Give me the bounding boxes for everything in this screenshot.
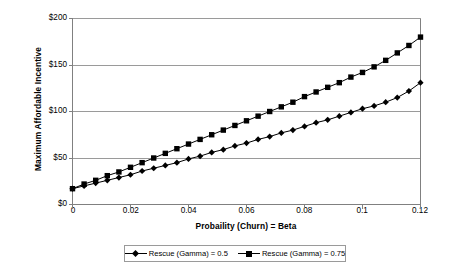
data-point-marker: [93, 178, 98, 183]
data-point-marker: [70, 186, 75, 191]
data-point-marker: [360, 70, 365, 75]
data-point-marker: [243, 140, 249, 146]
data-point-marker: [371, 103, 377, 109]
data-point-marker: [81, 181, 86, 186]
data-point-marker: [105, 173, 110, 178]
legend-label-gamma-075: Rescue (Gamma) = 0.75: [262, 249, 345, 258]
data-point-marker: [162, 162, 168, 168]
data-point-marker: [128, 165, 133, 170]
data-point-marker: [151, 155, 156, 160]
series-1: [69, 80, 423, 192]
data-point-marker: [325, 117, 331, 123]
data-point-marker: [209, 149, 215, 155]
series-2: [70, 34, 423, 191]
legend-marker-diamond-icon: [125, 249, 147, 258]
data-point-marker: [255, 113, 260, 118]
legend-marker-square-icon: [238, 249, 260, 258]
data-point-marker: [127, 172, 133, 178]
data-point-marker: [267, 134, 273, 140]
data-point-marker: [383, 58, 388, 63]
data-point-marker: [278, 130, 284, 136]
legend-entry-gamma-05: Rescue (Gamma) = 0.5: [125, 249, 228, 258]
data-point-marker: [313, 89, 318, 94]
data-point-marker: [395, 50, 400, 55]
data-point-marker: [186, 141, 191, 146]
data-point-marker: [348, 109, 354, 115]
data-point-marker: [325, 85, 330, 90]
data-point-marker: [209, 132, 214, 137]
data-point-marker: [174, 146, 179, 151]
data-point-marker: [151, 165, 157, 171]
data-point-marker: [116, 174, 122, 180]
data-point-marker: [301, 123, 307, 129]
data-point-marker: [290, 127, 296, 133]
data-point-marker: [418, 34, 423, 39]
data-point-marker: [221, 127, 226, 132]
data-point-marker: [336, 113, 342, 119]
data-point-marker: [290, 100, 295, 105]
data-point-marker: [359, 106, 365, 112]
axis-ticks: [69, 19, 421, 209]
data-point-marker: [406, 43, 411, 48]
data-point-marker: [220, 147, 226, 153]
plot-area: [0, 0, 452, 275]
data-point-marker: [302, 94, 307, 99]
data-point-marker: [163, 151, 168, 156]
data-point-marker: [348, 74, 353, 79]
chart-figure: Maximum Affordable Incentive $200 $150 $…: [0, 0, 452, 275]
data-point-marker: [139, 160, 144, 165]
data-point-marker: [174, 160, 180, 166]
data-point-marker: [394, 94, 400, 100]
data-point-marker: [185, 156, 191, 162]
data-point-marker: [232, 123, 237, 128]
data-point-marker: [139, 168, 145, 174]
data-point-marker: [197, 137, 202, 142]
chart-legend: Rescue (Gamma) = 0.5 Rescue (Gamma) = 0.…: [124, 245, 346, 262]
series-line: [73, 37, 421, 189]
x-axis-title: Probaility (Churn) = Beta: [72, 221, 420, 231]
data-point-marker: [337, 80, 342, 85]
data-point-marker: [313, 120, 319, 126]
data-point-marker: [244, 118, 249, 123]
series-line: [73, 83, 421, 189]
data-point-marker: [279, 104, 284, 109]
data-point-marker: [116, 169, 121, 174]
data-point-marker: [371, 64, 376, 69]
data-point-marker: [232, 143, 238, 149]
legend-entry-gamma-075: Rescue (Gamma) = 0.75: [238, 249, 345, 258]
legend-label-gamma-05: Rescue (Gamma) = 0.5: [149, 249, 228, 258]
data-point-marker: [267, 109, 272, 114]
data-point-marker: [383, 99, 389, 105]
data-series-layer: [69, 34, 423, 191]
data-point-marker: [255, 136, 261, 142]
